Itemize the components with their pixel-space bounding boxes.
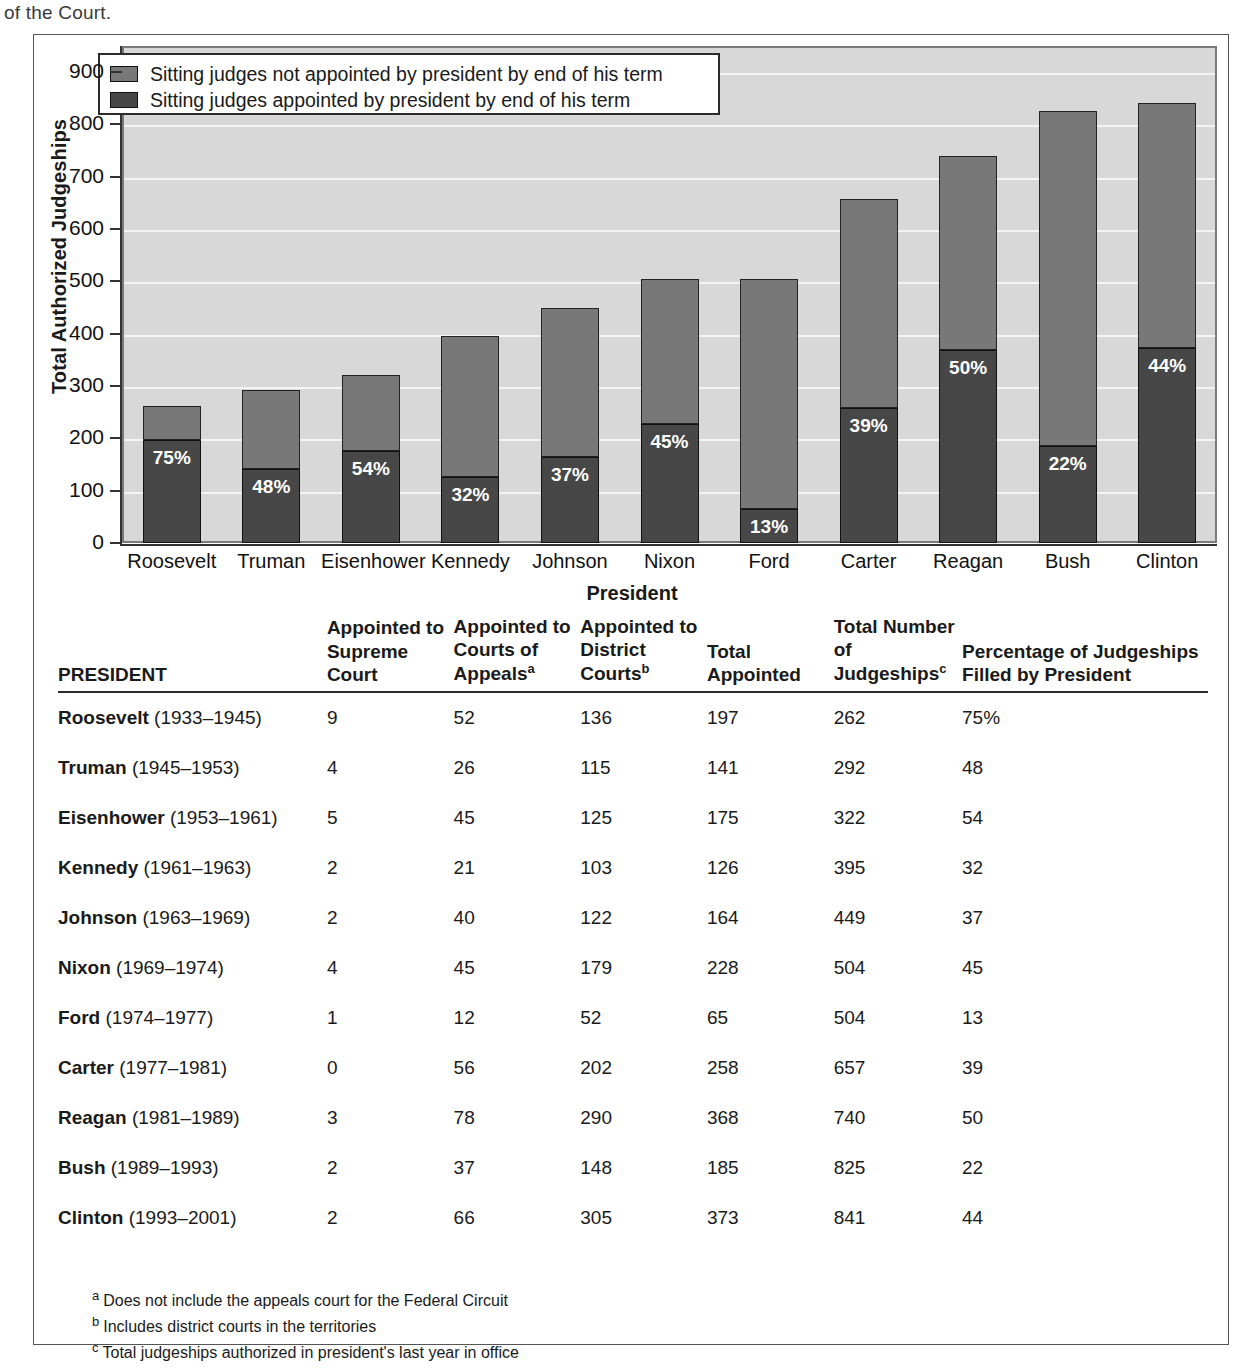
cell-appeals: 12 — [454, 993, 581, 1043]
bar-segment-appointed: 75% — [143, 440, 201, 543]
bar-data-label: 45% — [642, 431, 698, 453]
cell-district: 103 — [580, 843, 707, 893]
cell-percentage: 39 — [962, 1043, 1208, 1093]
bar-data-label: 37% — [542, 464, 598, 486]
cell-percentage: 48 — [962, 743, 1208, 793]
y-axis-tick-label: 300 — [34, 373, 104, 397]
y-axis-tick-label: 400 — [34, 321, 104, 345]
chart-legend: Sitting judges not appointed by presiden… — [98, 53, 720, 115]
cell-total-judgeships: 825 — [834, 1143, 962, 1193]
cell-president: Clinton (1993–2001) — [58, 1193, 327, 1243]
col-header-total-judgeships: Total Number of Judgeshipsc — [834, 615, 962, 692]
cell-total-appointed: 197 — [707, 692, 834, 743]
president-years: (1953–1961) — [165, 807, 278, 828]
cell-total-judgeships: 740 — [834, 1093, 962, 1143]
legend-swatch-icon — [110, 92, 138, 108]
x-axis-tick-label: Ford — [719, 550, 819, 573]
bar-segment-not-appointed — [1039, 111, 1097, 446]
cell-supreme: 9 — [327, 692, 454, 743]
president-name: Eisenhower — [58, 807, 165, 828]
bar-data-label: 32% — [442, 484, 498, 506]
table-row: Carter (1977–1981)05620225865739 — [58, 1043, 1208, 1093]
bar-segment-not-appointed — [441, 336, 499, 477]
bar-bush: 22% — [1039, 111, 1097, 543]
legend-item-not-appointed: Sitting judges not appointed by presiden… — [110, 61, 708, 87]
footnotes-block: aDoes not include the appeals court for … — [92, 1287, 1092, 1365]
cell-total-appointed: 141 — [707, 743, 834, 793]
y-axis-tick — [110, 437, 122, 439]
cell-appeals: 45 — [454, 943, 581, 993]
footnote-mark: a — [92, 1288, 99, 1303]
cell-district: 122 — [580, 893, 707, 943]
bar-nixon: 45% — [641, 279, 699, 543]
cell-district: 290 — [580, 1093, 707, 1143]
bar-segment-appointed: 44% — [1138, 348, 1196, 543]
bar-carter: 39% — [840, 199, 898, 543]
cell-president: Bush (1989–1993) — [58, 1143, 327, 1193]
x-axis-tick-label: Johnson — [520, 550, 620, 573]
bar-segment-not-appointed — [1138, 103, 1196, 348]
president-name: Bush — [58, 1157, 106, 1178]
table-row: Eisenhower (1953–1961)54512517532254 — [58, 793, 1208, 843]
bar-segment-not-appointed — [641, 279, 699, 423]
x-axis-tick-label: Carter — [819, 550, 919, 573]
y-axis-tick-label: 700 — [34, 164, 104, 188]
y-axis-tick — [110, 228, 122, 230]
x-axis-tick-label: Eisenhower — [321, 550, 421, 573]
cell-president: Eisenhower (1953–1961) — [58, 793, 327, 843]
cell-total-appointed: 185 — [707, 1143, 834, 1193]
x-axis-tick-label: Truman — [222, 550, 322, 573]
y-axis-tick — [110, 71, 122, 73]
y-axis-tick — [110, 280, 122, 282]
x-axis-tick-label: Clinton — [1117, 550, 1217, 573]
bar-segment-appointed: 32% — [441, 477, 499, 543]
president-years: (1963–1969) — [137, 907, 250, 928]
table-row: Kennedy (1961–1963)22110312639532 — [58, 843, 1208, 893]
cell-total-judgeships: 449 — [834, 893, 962, 943]
x-axis-title: President — [34, 582, 1230, 605]
president-name: Johnson — [58, 907, 137, 928]
table-row: Johnson (1963–1969)24012216444937 — [58, 893, 1208, 943]
cell-appeals: 21 — [454, 843, 581, 893]
col-header-total-appointed: Total Appointed — [707, 615, 834, 692]
col-header-appeals: Appointed to Courts of Appealsa — [454, 615, 581, 692]
table-row: Nixon (1969–1974)44517922850445 — [58, 943, 1208, 993]
col-header-total-judgeships-text: Total Number of Judgeships — [834, 616, 955, 685]
y-axis-tick-label: 0 — [34, 530, 104, 554]
president-years: (1981–1989) — [127, 1107, 240, 1128]
president-name: Clinton — [58, 1207, 123, 1228]
president-name: Truman — [58, 757, 127, 778]
cell-total-judgeships: 262 — [834, 692, 962, 743]
cell-percentage: 75% — [962, 692, 1208, 743]
cell-president: Ford (1974–1977) — [58, 993, 327, 1043]
y-axis-tick — [110, 176, 122, 178]
legend-label: Sitting judges appointed by president by… — [150, 89, 630, 112]
bar-segment-not-appointed — [541, 308, 599, 457]
cell-supreme: 2 — [327, 1193, 454, 1243]
cell-total-appointed: 368 — [707, 1093, 834, 1143]
footnote-mark: c — [92, 1340, 99, 1355]
table-row: Clinton (1993–2001)26630537384144 — [58, 1193, 1208, 1243]
running-body-text: of the Court. — [4, 2, 111, 24]
president-years: (1993–2001) — [123, 1207, 236, 1228]
cell-total-appointed: 175 — [707, 793, 834, 843]
bar-segment-not-appointed — [242, 390, 300, 469]
bar-data-label: 48% — [243, 476, 299, 498]
y-axis-tick-label: 500 — [34, 268, 104, 292]
footnote-text: Total judgeships authorized in president… — [103, 1344, 519, 1361]
cell-total-appointed: 164 — [707, 893, 834, 943]
bar-segment-appointed: 45% — [641, 424, 699, 543]
cell-total-appointed: 258 — [707, 1043, 834, 1093]
cell-total-judgeships: 657 — [834, 1043, 962, 1093]
cell-supreme: 5 — [327, 793, 454, 843]
president-years: (1969–1974) — [111, 957, 224, 978]
table-body: Roosevelt (1933–1945)95213619726275%Trum… — [58, 692, 1208, 1243]
cell-percentage: 13 — [962, 993, 1208, 1043]
cell-appeals: 40 — [454, 893, 581, 943]
president-name: Nixon — [58, 957, 111, 978]
cell-appeals: 66 — [454, 1193, 581, 1243]
cell-supreme: 4 — [327, 743, 454, 793]
cell-total-judgeships: 504 — [834, 943, 962, 993]
cell-district: 305 — [580, 1193, 707, 1243]
bar-eisenhower: 54% — [342, 375, 400, 543]
